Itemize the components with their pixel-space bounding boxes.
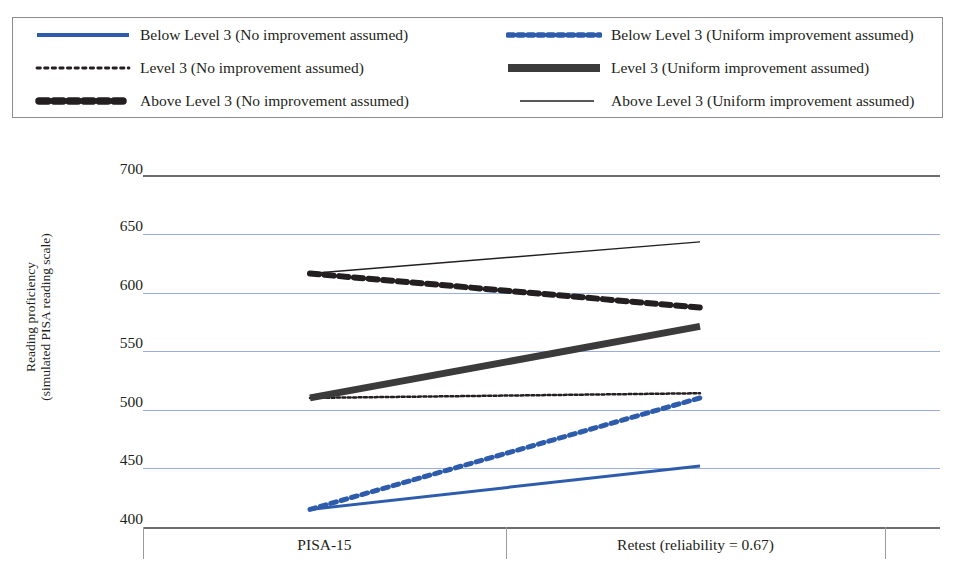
- series-line-3: [310, 326, 700, 398]
- chart-plot-area: Reading proficiency (simulated PISA read…: [0, 150, 964, 583]
- legend-label: Below Level 3 (Uniform improvement assum…: [611, 27, 914, 43]
- x-tick-mark-end: [885, 527, 886, 559]
- legend-item-above-level-3-uniform-improvement[interactable]: Above Level 3 (Uniform improvement assum…: [500, 93, 942, 109]
- legend-swatch-dotted-thin-black-icon: [35, 61, 131, 75]
- legend-label: Above Level 3 (Uniform improvement assum…: [611, 93, 914, 109]
- series-line-5: [310, 242, 700, 274]
- legend-item-level-3-uniform-improvement[interactable]: Level 3 (Uniform improvement assumed): [500, 60, 942, 76]
- legend-label: Below Level 3 (No improvement assumed): [140, 27, 408, 43]
- chart-title-clipped: [0, 0, 964, 9]
- legend-item-level-3-no-improvement[interactable]: Level 3 (No improvement assumed): [13, 60, 500, 76]
- y-axis-ticks: 700 650 600 550 500 450 400: [0, 150, 143, 527]
- x-category-retest: Retest (reliability = 0.67): [506, 536, 885, 554]
- legend-swatch-solid-extrathick-gray-icon: [506, 61, 602, 75]
- y-tick-400: 400: [89, 510, 143, 528]
- x-category-pisa-15: PISA-15: [143, 536, 506, 554]
- x-axis: PISA-15 Retest (reliability = 0.67): [143, 527, 940, 583]
- y-tick-450: 450: [89, 451, 143, 469]
- series-line-2: [310, 393, 700, 398]
- legend-swatch-dashed-extrathick-black-icon: [35, 94, 131, 108]
- legend-swatch-solid-thin-black-icon: [506, 94, 602, 108]
- legend-label: Above Level 3 (No improvement assumed): [140, 93, 409, 109]
- legend-swatch-solid-thick-blue-icon: [35, 28, 131, 42]
- y-tick-600: 600: [89, 276, 143, 294]
- legend-item-below-level-3-uniform-improvement[interactable]: Below Level 3 (Uniform improvement assum…: [500, 27, 942, 43]
- chart-legend: Below Level 3 (No improvement assumed) B…: [12, 17, 943, 118]
- legend-item-below-level-3-no-improvement[interactable]: Below Level 3 (No improvement assumed): [13, 27, 500, 43]
- legend-item-above-level-3-no-improvement[interactable]: Above Level 3 (No improvement assumed): [13, 93, 500, 109]
- legend-label: Level 3 (Uniform improvement assumed): [611, 60, 869, 76]
- series-line-0: [310, 466, 700, 509]
- legend-label: Level 3 (No improvement assumed): [140, 60, 364, 76]
- y-tick-550: 550: [89, 334, 143, 352]
- legend-swatch-dotted-thick-blue-icon: [506, 28, 602, 42]
- series-line-4: [310, 274, 700, 308]
- y-tick-500: 500: [89, 393, 143, 411]
- series-line-1: [310, 398, 700, 509]
- y-tick-650: 650: [89, 217, 143, 235]
- y-tick-700: 700: [89, 160, 143, 178]
- series-lines: [143, 150, 940, 527]
- x-axis-baseline: [143, 527, 940, 529]
